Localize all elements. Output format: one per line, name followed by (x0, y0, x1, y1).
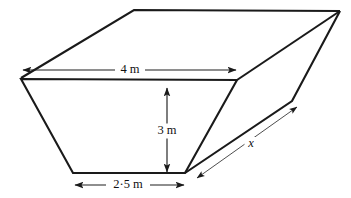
top-width-label: 4 m (120, 62, 139, 76)
geometry-figure: 4 m 3 m 2·5 m x (0, 0, 351, 198)
figure-canvas: 4 m 3 m 2·5 m x (0, 0, 351, 198)
solid-edges (21, 10, 340, 173)
bottom-width-label: 2·5 m (113, 177, 143, 191)
right-face-lower-path (185, 11, 340, 173)
height-label: 3 m (157, 123, 176, 137)
dimension-labels: 4 m 3 m 2·5 m x (113, 62, 254, 191)
depth-label: x (247, 136, 254, 150)
right-face-upper-path (237, 11, 340, 80)
